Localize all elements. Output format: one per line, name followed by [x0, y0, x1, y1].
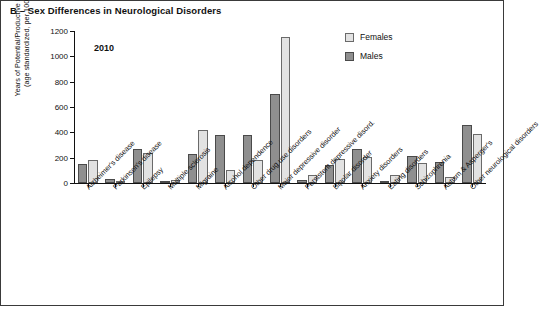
y-tick-mark — [70, 31, 74, 32]
year-annotation: 2010 — [94, 43, 114, 53]
y-tick-label: 1000 — [50, 52, 68, 61]
legend-label-males: Males — [360, 51, 383, 61]
chart-legend: Females Males — [345, 32, 393, 70]
y-tick-mark — [70, 183, 74, 184]
y-tick-mark — [70, 82, 74, 83]
bar-males — [78, 164, 88, 183]
y-axis-line — [74, 31, 75, 184]
y-axis-title: Years of Potential/Productive Life Lost … — [13, 0, 39, 123]
y-tick-label: 0 — [64, 179, 68, 188]
y-tick-label: 200 — [55, 153, 68, 162]
y-tick-label: 800 — [55, 77, 68, 86]
y-tick-mark — [70, 107, 74, 108]
y-tick-label: 400 — [55, 128, 68, 137]
page-title: B – Sex Differences in Neurological Diso… — [10, 5, 221, 16]
y-tick-mark — [70, 158, 74, 159]
legend-item-males: Males — [345, 51, 393, 61]
bar-males — [215, 135, 225, 183]
y-tick-label: 600 — [55, 103, 68, 112]
females-swatch-icon — [345, 33, 354, 42]
legend-label-females: Females — [360, 32, 393, 42]
males-swatch-icon — [345, 52, 354, 61]
legend-item-females: Females — [345, 32, 393, 42]
y-tick-mark — [70, 56, 74, 57]
y-tick-mark — [70, 132, 74, 133]
x-axis-labels: Alzheimer's diseaseParkinson's diseaseEp… — [74, 185, 486, 305]
y-tick-label: 1200 — [50, 27, 68, 36]
